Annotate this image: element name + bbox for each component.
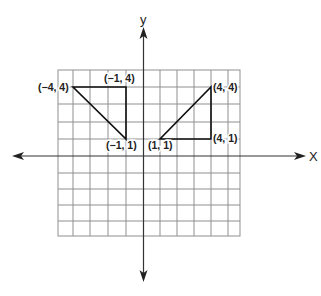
label-neg1-1: (−1, 1) (106, 139, 137, 151)
axes (18, 32, 300, 276)
label-neg4-4: (−4, 4) (38, 81, 69, 93)
right-triangle (160, 87, 211, 139)
label-neg1-4: (−1, 4) (104, 72, 135, 84)
grid (58, 70, 240, 236)
y-axis-label: y (140, 12, 147, 27)
left-triangle (73, 87, 126, 139)
grid-border (58, 70, 240, 236)
label-4-4: (4, 4) (213, 81, 238, 93)
label-1-1: (1, 1) (148, 139, 173, 151)
x-axis-label: X (309, 149, 318, 164)
coordinate-plane: X y (−4, 4) (−1, 4) (−1, 1) (1, 1) (4, 4… (0, 0, 321, 296)
label-4-1: (4, 1) (213, 132, 238, 144)
